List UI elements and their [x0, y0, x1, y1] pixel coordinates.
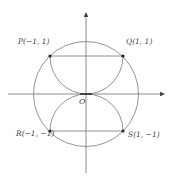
- point-P: [48, 54, 51, 57]
- label-S: S(1, −1): [128, 130, 160, 139]
- label-Q: Q(1, 1): [126, 37, 152, 46]
- upper-semicircle-arc: [50, 56, 123, 94]
- label-R: R(−1, −1): [15, 129, 54, 138]
- point-S: [121, 129, 124, 132]
- label-P: P(−1, 1): [17, 37, 50, 46]
- label-origin: O: [79, 97, 86, 106]
- lower-semicircle-arc: [50, 94, 123, 131]
- diagram: P(−1, 1) Q(1, 1) R(−1, −1) S(1, −1) O: [0, 0, 171, 183]
- point-Q: [121, 54, 124, 57]
